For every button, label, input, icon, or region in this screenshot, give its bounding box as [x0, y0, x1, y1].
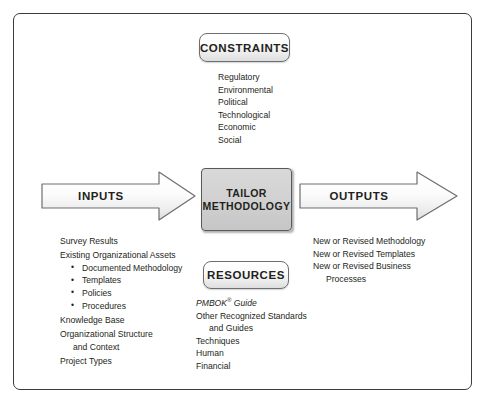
list-item: Knowledge Base [60, 314, 182, 327]
list-item: and Context [60, 341, 182, 354]
resources-box: RESOURCES [203, 261, 289, 289]
list-item: and Guides [196, 322, 307, 335]
tailor-methodology-label: TAILOR METHODOLOGY [203, 187, 291, 213]
constraints-title: CONSTRAINTS [200, 42, 289, 54]
tailor-methodology-box: TAILOR METHODOLOGY [201, 168, 292, 231]
list-item: Human [196, 347, 307, 360]
list-item: Documented Methodology [60, 262, 182, 275]
list-item: Procedures [60, 300, 182, 313]
constraints-box: CONSTRAINTS [199, 33, 290, 62]
constraints-list: Regulatory Environmental Political Techn… [218, 71, 273, 147]
outputs-label: OUTPUTS [300, 170, 418, 222]
outputs-list: New or Revised Methodology New or Revise… [313, 235, 425, 285]
list-item: Environmental [218, 84, 273, 97]
list-item: Organizational Structure [60, 328, 182, 341]
list-item: Regulatory [218, 71, 273, 84]
list-item: New or Revised Methodology [313, 235, 425, 248]
pmbok-guide-suffix: Guide [231, 298, 256, 308]
resources-list: PMBOK® Guide Other Recognized Standards … [196, 297, 307, 373]
list-item: Political [218, 96, 273, 109]
list-item: Existing Organizational Assets [60, 249, 182, 262]
list-item: Techniques [196, 335, 307, 348]
inputs-list: Survey Results Existing Organizational A… [60, 235, 182, 367]
list-item: New or Revised Business [313, 260, 425, 273]
list-item: Technological [218, 109, 273, 122]
list-item: Survey Results [60, 235, 182, 248]
list-item: Economic [218, 121, 273, 134]
center-label-line1: TAILOR [226, 187, 267, 199]
list-item: Financial [196, 360, 307, 373]
list-item: Social [218, 134, 273, 147]
diagram-canvas: CONSTRAINTS Regulatory Environmental Pol… [0, 0, 486, 407]
pmbok-text: PMBOK [196, 298, 227, 308]
center-label-line2: METHODOLOGY [203, 200, 291, 212]
list-item: Policies [60, 287, 182, 300]
list-item: Project Types [60, 355, 182, 368]
list-item: Processes [313, 273, 425, 286]
inputs-label: INPUTS [40, 170, 162, 222]
list-item: Other Recognized Standards [196, 310, 307, 323]
resources-title: RESOURCES [207, 269, 285, 281]
list-item: PMBOK® Guide [196, 297, 307, 310]
list-item: Templates [60, 274, 182, 287]
list-item: New or Revised Templates [313, 248, 425, 261]
